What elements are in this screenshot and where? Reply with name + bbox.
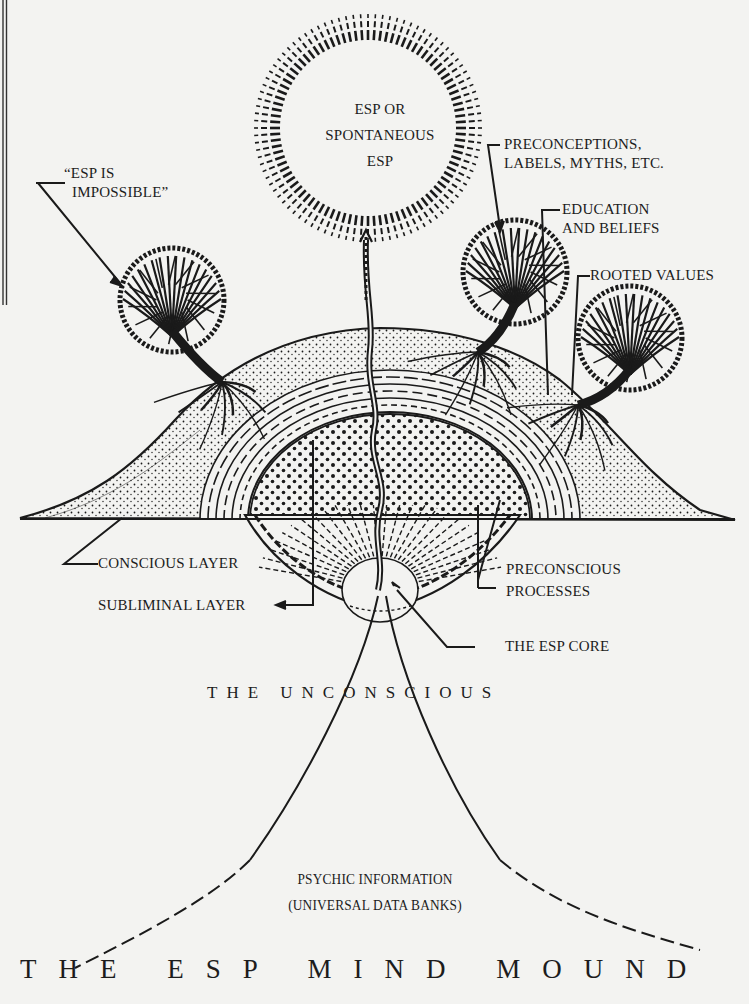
sun-label-line-3: ESP bbox=[310, 152, 450, 171]
label-preconceptions: PRECONCEPTIONS, LABELS, MYTHS, ETC. bbox=[504, 135, 664, 173]
esp-mind-mound-diagram: ESP OR SPONTANEOUS ESP “ESP IS IMPOSSIBL… bbox=[0, 0, 749, 1004]
label-education-beliefs: EDUCATION AND BELIEFS bbox=[562, 200, 660, 238]
diagram-title: THE ESP MIND MOUND bbox=[20, 960, 749, 979]
label-preconscious-line-1: PRECONSCIOUS bbox=[506, 558, 621, 580]
label-psychic-info-line-1: PSYCHIC INFORMATION bbox=[251, 866, 499, 892]
label-conscious-layer: CONSCIOUS LAYER bbox=[98, 554, 238, 573]
sun-label-line-2: SPONTANEOUS bbox=[310, 126, 450, 145]
label-esp-impossible: “ESP IS IMPOSSIBLE” bbox=[64, 164, 168, 202]
label-preconscious-line-2: PROCESSES bbox=[506, 580, 621, 602]
sun-label: ESP OR SPONTANEOUS ESP bbox=[310, 100, 450, 171]
label-preconceptions-line-2: LABELS, MYTHS, ETC. bbox=[504, 154, 664, 173]
label-education-line-1: EDUCATION bbox=[562, 200, 660, 219]
label-education-line-2: AND BELIEFS bbox=[562, 219, 660, 238]
label-preconscious-processes: PRECONSCIOUS PROCESSES bbox=[506, 558, 621, 602]
label-esp-impossible-line-2: IMPOSSIBLE” bbox=[72, 183, 168, 202]
label-psychic-information: PSYCHIC INFORMATION (UNIVERSAL DATA BANK… bbox=[251, 866, 499, 918]
label-subliminal-layer: SUBLIMINAL LAYER bbox=[98, 596, 246, 615]
label-preconceptions-line-1: PRECONCEPTIONS, bbox=[504, 135, 664, 154]
label-psychic-info-line-2: (UNIVERSAL DATA BANKS) bbox=[251, 892, 499, 918]
label-esp-core: THE ESP CORE bbox=[505, 637, 609, 656]
label-rooted-values: ROOTED VALUES bbox=[590, 266, 714, 285]
page-border bbox=[3, 0, 7, 305]
label-the-unconscious: THE UNCONSCIOUS bbox=[207, 683, 500, 702]
sun-label-line-1: ESP OR bbox=[310, 100, 450, 119]
label-esp-impossible-line-1: “ESP IS bbox=[64, 164, 168, 183]
